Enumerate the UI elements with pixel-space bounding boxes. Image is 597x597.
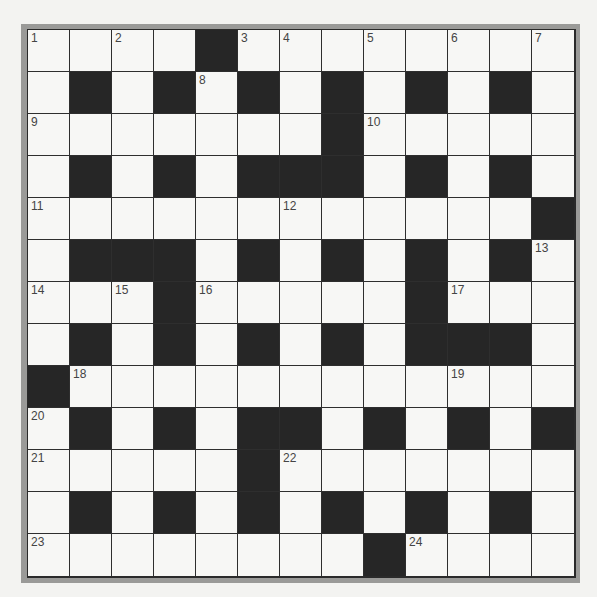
crossword-cell-r6c8[interactable] [364, 282, 406, 324]
crossword-cell-r12c12[interactable] [532, 534, 574, 576]
crossword-cell-r1c12[interactable] [532, 72, 574, 114]
crossword-cell-r10c1[interactable] [70, 450, 112, 492]
crossword-cell-r11c6[interactable] [280, 492, 322, 534]
crossword-cell-r12c10[interactable] [448, 534, 490, 576]
crossword-cell-r5c6[interactable] [280, 240, 322, 282]
crossword-cell-r6c12[interactable] [532, 282, 574, 324]
crossword-cell-r1c10[interactable] [448, 72, 490, 114]
crossword-cell-r0c3[interactable] [154, 30, 196, 72]
crossword-cell-r8c4[interactable] [196, 366, 238, 408]
crossword-cell-r11c4[interactable] [196, 492, 238, 534]
crossword-cell-r4c3[interactable] [154, 198, 196, 240]
crossword-cell-r2c11[interactable] [490, 114, 532, 156]
crossword-cell-r6c1[interactable] [70, 282, 112, 324]
crossword-cell-r2c10[interactable] [448, 114, 490, 156]
crossword-cell-r5c10[interactable] [448, 240, 490, 282]
crossword-cell-r1c6[interactable] [280, 72, 322, 114]
crossword-cell-r12c6[interactable] [280, 534, 322, 576]
crossword-cell-r4c4[interactable] [196, 198, 238, 240]
crossword-cell-r10c10[interactable] [448, 450, 490, 492]
crossword-cell-r10c4[interactable] [196, 450, 238, 492]
crossword-cell-r12c1[interactable] [70, 534, 112, 576]
crossword-cell-r9c0[interactable]: 20 [28, 408, 70, 450]
crossword-cell-r0c0[interactable]: 1 [28, 30, 70, 72]
crossword-cell-r12c4[interactable] [196, 534, 238, 576]
crossword-cell-r3c12[interactable] [532, 156, 574, 198]
crossword-cell-r8c5[interactable] [238, 366, 280, 408]
crossword-cell-r2c6[interactable] [280, 114, 322, 156]
crossword-cell-r0c9[interactable] [406, 30, 448, 72]
crossword-cell-r2c9[interactable] [406, 114, 448, 156]
crossword-cell-r6c2[interactable]: 15 [112, 282, 154, 324]
crossword-cell-r7c0[interactable] [28, 324, 70, 366]
crossword-cell-r9c7[interactable] [322, 408, 364, 450]
crossword-cell-r1c0[interactable] [28, 72, 70, 114]
crossword-cell-r8c7[interactable] [322, 366, 364, 408]
crossword-cell-r12c5[interactable] [238, 534, 280, 576]
crossword-cell-r12c3[interactable] [154, 534, 196, 576]
crossword-cell-r5c0[interactable] [28, 240, 70, 282]
crossword-cell-r8c8[interactable] [364, 366, 406, 408]
crossword-cell-r3c8[interactable] [364, 156, 406, 198]
crossword-cell-r6c0[interactable]: 14 [28, 282, 70, 324]
crossword-cell-r10c8[interactable] [364, 450, 406, 492]
crossword-cell-r4c0[interactable]: 11 [28, 198, 70, 240]
crossword-cell-r1c2[interactable] [112, 72, 154, 114]
crossword-cell-r2c2[interactable] [112, 114, 154, 156]
crossword-cell-r7c8[interactable] [364, 324, 406, 366]
crossword-cell-r8c6[interactable] [280, 366, 322, 408]
crossword-cell-r4c5[interactable] [238, 198, 280, 240]
crossword-cell-r2c12[interactable] [532, 114, 574, 156]
crossword-cell-r11c0[interactable] [28, 492, 70, 534]
crossword-cell-r12c11[interactable] [490, 534, 532, 576]
crossword-cell-r1c8[interactable] [364, 72, 406, 114]
crossword-cell-r0c5[interactable]: 3 [238, 30, 280, 72]
crossword-cell-r5c8[interactable] [364, 240, 406, 282]
crossword-cell-r0c10[interactable]: 6 [448, 30, 490, 72]
crossword-cell-r4c8[interactable] [364, 198, 406, 240]
crossword-cell-r0c11[interactable] [490, 30, 532, 72]
crossword-cell-r6c6[interactable] [280, 282, 322, 324]
crossword-cell-r3c0[interactable] [28, 156, 70, 198]
crossword-cell-r7c12[interactable] [532, 324, 574, 366]
crossword-cell-r9c9[interactable] [406, 408, 448, 450]
crossword-cell-r8c10[interactable]: 19 [448, 366, 490, 408]
crossword-cell-r10c12[interactable] [532, 450, 574, 492]
crossword-cell-r6c11[interactable] [490, 282, 532, 324]
crossword-cell-r12c7[interactable] [322, 534, 364, 576]
crossword-cell-r7c2[interactable] [112, 324, 154, 366]
crossword-cell-r5c4[interactable] [196, 240, 238, 282]
crossword-cell-r0c1[interactable] [70, 30, 112, 72]
crossword-cell-r4c10[interactable] [448, 198, 490, 240]
crossword-cell-r3c10[interactable] [448, 156, 490, 198]
crossword-cell-r0c7[interactable] [322, 30, 364, 72]
crossword-cell-r7c4[interactable] [196, 324, 238, 366]
crossword-cell-r12c9[interactable]: 24 [406, 534, 448, 576]
crossword-cell-r10c7[interactable] [322, 450, 364, 492]
crossword-cell-r9c11[interactable] [490, 408, 532, 450]
crossword-cell-r6c10[interactable]: 17 [448, 282, 490, 324]
crossword-cell-r5c12[interactable]: 13 [532, 240, 574, 282]
crossword-cell-r12c0[interactable]: 23 [28, 534, 70, 576]
crossword-cell-r0c2[interactable]: 2 [112, 30, 154, 72]
crossword-cell-r4c11[interactable] [490, 198, 532, 240]
crossword-cell-r2c1[interactable] [70, 114, 112, 156]
crossword-cell-r6c5[interactable] [238, 282, 280, 324]
crossword-cell-r0c6[interactable]: 4 [280, 30, 322, 72]
crossword-cell-r9c4[interactable] [196, 408, 238, 450]
crossword-cell-r10c2[interactable] [112, 450, 154, 492]
crossword-cell-r12c2[interactable] [112, 534, 154, 576]
crossword-cell-r10c6[interactable]: 22 [280, 450, 322, 492]
crossword-cell-r0c12[interactable]: 7 [532, 30, 574, 72]
crossword-cell-r8c9[interactable] [406, 366, 448, 408]
crossword-cell-r11c8[interactable] [364, 492, 406, 534]
crossword-cell-r8c3[interactable] [154, 366, 196, 408]
crossword-cell-r4c2[interactable] [112, 198, 154, 240]
crossword-cell-r4c1[interactable] [70, 198, 112, 240]
crossword-cell-r10c0[interactable]: 21 [28, 450, 70, 492]
crossword-cell-r2c4[interactable] [196, 114, 238, 156]
crossword-cell-r1c4[interactable]: 8 [196, 72, 238, 114]
crossword-cell-r11c12[interactable] [532, 492, 574, 534]
crossword-cell-r11c2[interactable] [112, 492, 154, 534]
crossword-cell-r8c12[interactable] [532, 366, 574, 408]
